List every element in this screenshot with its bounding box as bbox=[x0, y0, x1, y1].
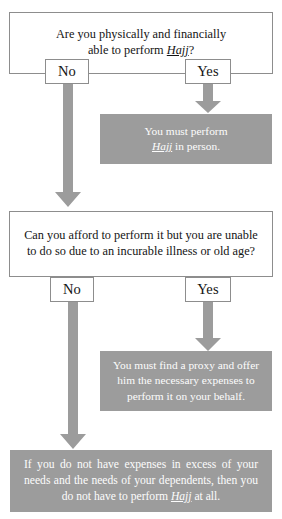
flowchart-canvas: Are you physically and financially able … bbox=[0, 0, 282, 519]
question-2-line-1: Can you afford to perform it but you are… bbox=[24, 228, 258, 242]
question-box-2: Can you afford to perform it but you are… bbox=[9, 211, 273, 277]
arrow-q1-no-down bbox=[54, 84, 82, 208]
result-1-line-2-suffix: in person. bbox=[172, 140, 220, 152]
decision-q1-yes[interactable]: Yes bbox=[185, 59, 231, 84]
result-box-3: If you do not have expenses in excess of… bbox=[10, 450, 272, 512]
result-1-line-1: You must perform bbox=[144, 125, 227, 137]
decision-q1-no[interactable]: No bbox=[45, 59, 89, 84]
result-1-hajj-term: Hajj bbox=[152, 140, 172, 152]
arrow-q1-yes-down bbox=[194, 84, 222, 114]
question-1-line-2-prefix: able to perform bbox=[88, 43, 167, 57]
question-1-line-2-suffix: ? bbox=[189, 43, 194, 57]
question-1-line-1: Are you physically and financially bbox=[56, 27, 226, 41]
question-1-text: Are you physically and financially able … bbox=[18, 27, 264, 59]
result-3-hajj-term: Hajj bbox=[171, 490, 192, 503]
result-3-line-3-suffix: at all. bbox=[192, 490, 221, 503]
result-1-text: You must perform Hajj in person. bbox=[107, 124, 265, 154]
result-3-text: If you do not have expenses in excess of… bbox=[24, 457, 258, 505]
result-3-line-1: If you do not have expenses in excess of… bbox=[24, 458, 258, 471]
result-box-2: You must find a proxy and offer him the … bbox=[100, 351, 272, 411]
question-2-line-2: to do so due to an incurable illness or … bbox=[27, 244, 255, 258]
arrow-q2-no-down bbox=[59, 302, 87, 450]
arrow-q2-yes-down bbox=[194, 302, 222, 352]
result-3-line-2: needs and the needs of your dependents, … bbox=[24, 474, 258, 487]
result-box-1: You must perform Hajj in person. bbox=[100, 114, 272, 164]
question-1-hajj-term: Hajj bbox=[167, 43, 189, 57]
result-2-line-3: perform it on your behalf. bbox=[127, 390, 245, 402]
result-2-text: You must find a proxy and offer him the … bbox=[107, 358, 265, 403]
result-2-line-2: him the necessary expenses to bbox=[117, 374, 254, 386]
decision-q2-yes[interactable]: Yes bbox=[185, 277, 231, 302]
question-2-text: Can you afford to perform it but you are… bbox=[18, 228, 264, 260]
result-2-line-1: You must find a proxy and offer bbox=[113, 359, 259, 371]
result-3-line-3-prefix: do not have to perform bbox=[62, 490, 171, 503]
decision-q2-no[interactable]: No bbox=[50, 277, 94, 302]
